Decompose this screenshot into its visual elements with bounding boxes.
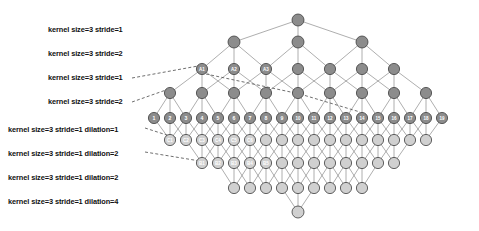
node-row-5-numbered-2[interactable]: 3 [180, 112, 191, 123]
node-label: C5 [231, 138, 237, 143]
node-row-8-7[interactable] [340, 182, 351, 193]
node-row-7-b-0[interactable]: B1 [196, 157, 207, 168]
node-row-6-c-16[interactable] [420, 134, 431, 145]
node-row-5-numbered-11[interactable]: 12 [324, 112, 335, 123]
node-row-3-0[interactable]: A1 [196, 63, 207, 74]
node-row-4-7[interactable] [388, 87, 399, 98]
diagram-canvas: A1A2A312345678910111213141516171819C1C2C… [0, 0, 479, 231]
node-row-5-numbered-16[interactable]: 17 [404, 112, 415, 123]
node-row-6-c-15[interactable] [404, 134, 415, 145]
node-row-3-2[interactable]: A3 [260, 63, 271, 74]
node-label: 18 [423, 116, 429, 121]
node-circle [308, 134, 319, 145]
node-label: 6 [233, 115, 236, 121]
node-label: C3 [199, 138, 205, 143]
node-row-5-numbered-4[interactable]: 5 [212, 112, 223, 123]
node-row-7-b-2[interactable]: B3 [228, 157, 239, 168]
node-row-8-8[interactable] [356, 182, 367, 193]
node-label: 3 [185, 115, 188, 121]
node-row-3-4[interactable] [324, 63, 335, 74]
node-label: 5 [217, 115, 220, 121]
node-row-8-0[interactable] [228, 182, 239, 193]
node-row-7-b-10[interactable] [356, 157, 367, 168]
node-row-6-c-4[interactable]: C5 [228, 134, 239, 145]
node-row-5-numbered-1[interactable]: 2 [164, 112, 175, 123]
node-row-7-b-1[interactable]: B2 [212, 157, 223, 168]
node-circle [276, 182, 287, 193]
node-row-6-c-2[interactable]: C3 [196, 134, 207, 145]
node-circle [356, 36, 368, 48]
node-row-4-3[interactable] [260, 87, 271, 98]
node-row-5-numbered-5[interactable]: 6 [228, 112, 239, 123]
node-row-7-b-3[interactable]: B4 [244, 157, 255, 168]
node-row-6-c-0[interactable]: C1 [164, 134, 175, 145]
node-row-8-2[interactable] [260, 182, 271, 193]
node-row-6-c-9[interactable] [308, 134, 319, 145]
node-row-5-numbered-17[interactable]: 18 [420, 112, 431, 123]
node-label: B1 [199, 161, 205, 166]
node-row-6-c-3[interactable]: C4 [212, 134, 223, 145]
node-row-6-c-13[interactable] [372, 134, 383, 145]
node-row-5-numbered-9[interactable]: 10 [292, 112, 303, 123]
node-circle [356, 182, 367, 193]
node-row-6-c-6[interactable] [260, 134, 271, 145]
node-row-7-b-5[interactable] [276, 157, 287, 168]
node-circle [292, 36, 304, 48]
node-row-7-b-8[interactable] [324, 157, 335, 168]
node-row-6-c-1[interactable]: C2 [180, 134, 191, 145]
node-row-6-c-7[interactable] [276, 134, 287, 145]
node-circle [356, 134, 367, 145]
node-row-6-c-14[interactable] [388, 134, 399, 145]
node-row-7-b-6[interactable] [292, 157, 303, 168]
node-row-4-1[interactable] [196, 87, 207, 98]
node-row-4-8[interactable] [420, 87, 431, 98]
node-row-7-b-12[interactable] [388, 157, 399, 168]
node-row-2-2[interactable] [356, 36, 368, 48]
node-row-6-c-12[interactable] [356, 134, 367, 145]
node-label: A2 [231, 67, 237, 72]
node-row-5-numbered-7[interactable]: 8 [260, 112, 271, 123]
node-row-6-c-10[interactable] [324, 134, 335, 145]
node-row-7-b-4[interactable]: B5 [260, 157, 271, 168]
node-row-6-c-8[interactable] [292, 134, 303, 145]
node-row-8-5[interactable] [308, 182, 319, 193]
node-row-5-numbered-12[interactable]: 13 [340, 112, 351, 123]
node-row-5-numbered-14[interactable]: 15 [372, 112, 383, 123]
node-row-2-1[interactable] [292, 36, 304, 48]
node-row-6-c-5[interactable]: C6 [244, 134, 255, 145]
node-row-apex-bottom-0[interactable] [292, 206, 304, 218]
node-row-5-numbered-6[interactable]: 7 [244, 112, 255, 123]
node-row-8-3[interactable] [276, 182, 287, 193]
node-row-5-numbered-8[interactable]: 9 [276, 112, 287, 123]
node-circle [388, 134, 399, 145]
node-row-4-4[interactable] [292, 87, 303, 98]
node-row-apex-top-0[interactable] [292, 14, 304, 26]
node-row-5-numbered-10[interactable]: 11 [308, 112, 319, 123]
node-row-5-numbered-0[interactable]: 1 [148, 112, 159, 123]
node-row-3-5[interactable] [356, 63, 367, 74]
node-row-4-6[interactable] [356, 87, 367, 98]
node-circle [276, 134, 287, 145]
node-row-3-1[interactable]: A2 [228, 63, 239, 74]
node-row-7-b-9[interactable] [340, 157, 351, 168]
node-layer: A1A2A312345678910111213141516171819C1C2C… [148, 14, 447, 218]
node-row-7-b-7[interactable] [308, 157, 319, 168]
node-row-4-2[interactable] [228, 87, 239, 98]
node-row-6-c-11[interactable] [340, 134, 351, 145]
node-circle [340, 157, 351, 168]
node-label: 14 [359, 116, 365, 121]
node-row-8-1[interactable] [244, 182, 255, 193]
node-row-5-numbered-13[interactable]: 14 [356, 112, 367, 123]
node-label: C2 [183, 138, 189, 143]
node-row-5-numbered-15[interactable]: 16 [388, 112, 399, 123]
node-row-4-5[interactable] [324, 87, 335, 98]
node-row-5-numbered-18[interactable]: 19 [436, 112, 447, 123]
node-row-7-b-11[interactable] [372, 157, 383, 168]
node-row-3-3[interactable] [292, 63, 303, 74]
node-row-5-numbered-3[interactable]: 4 [196, 112, 207, 123]
node-row-8-6[interactable] [324, 182, 335, 193]
node-row-8-4[interactable] [292, 182, 303, 193]
node-row-2-0[interactable] [228, 36, 240, 48]
node-row-3-6[interactable] [388, 63, 399, 74]
node-row-4-0[interactable] [164, 87, 175, 98]
